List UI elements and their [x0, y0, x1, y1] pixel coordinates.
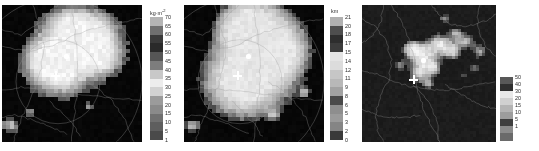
station-cross-icon: [409, 75, 418, 84]
colorbar-tick-label: 1: [515, 124, 518, 129]
figure-root: kg·m-2 7065605550454035302520151051 km 2…: [0, 0, 539, 151]
colorbar-tick-label: 30: [515, 89, 521, 94]
colorbar-tick-label: 5: [515, 117, 518, 122]
raster-canvas-right: [362, 5, 496, 142]
map-raster-right: [362, 5, 496, 142]
colorbar-tick-label: 50: [515, 75, 521, 80]
colorbar-tick-label: 40: [515, 82, 521, 87]
colorbar-band: [500, 133, 513, 141]
colorbar-tick-label: 10: [515, 110, 521, 115]
colorbar-right: [500, 77, 513, 140]
colorbar-tick-label: 15: [515, 103, 521, 108]
colorbar-tick-label: 20: [515, 96, 521, 101]
colorbar-strip-right: [500, 77, 513, 140]
station-dot-icon: [421, 58, 426, 63]
panel-right: 50403020151051: [0, 0, 539, 151]
